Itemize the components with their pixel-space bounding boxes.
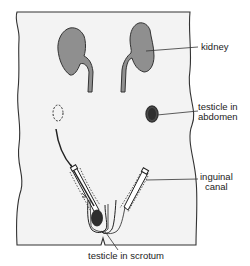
inguinal-canal-label: inguinal canal xyxy=(200,172,233,192)
kidney-label: kidney xyxy=(201,42,228,52)
anatomy-diagram xyxy=(0,0,250,266)
testicle-in-scrotum-label: testicle in scrotum xyxy=(88,251,164,261)
testicle-in-scrotum xyxy=(92,210,103,226)
testicle-in-abdomen-label: testicle in abdomen xyxy=(198,102,238,122)
body-outline xyxy=(16,12,197,245)
testicle-abdomen-inner xyxy=(148,108,156,120)
